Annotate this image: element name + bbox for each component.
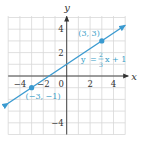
data-point bbox=[29, 85, 34, 90]
point-label: (−3, −1) bbox=[26, 92, 61, 101]
x-tick-label: −4 bbox=[14, 79, 27, 89]
equation-equals: = bbox=[90, 55, 97, 64]
x-tick-labels: −4−2024 bbox=[14, 79, 117, 89]
equation-denominator: 3 bbox=[99, 61, 103, 68]
y-tick-label: 2 bbox=[58, 48, 63, 58]
x-axis-label: x bbox=[131, 71, 137, 82]
y-tick-label: 4 bbox=[58, 24, 63, 34]
x-tick-label: 0 bbox=[58, 79, 63, 89]
y-axis-label: y bbox=[63, 2, 70, 13]
equation-y: y bbox=[80, 55, 86, 64]
equation-numerator: 2 bbox=[99, 51, 103, 58]
data-point bbox=[99, 38, 104, 43]
point-label: (3, 3) bbox=[78, 29, 100, 38]
x-tick-label: 2 bbox=[87, 79, 92, 89]
coordinate-plane: x y −4−2024 42−4 (3, 3)(−3, −1) y = 2 3 … bbox=[0, 0, 142, 142]
equation-rest: x + 1 bbox=[105, 55, 126, 64]
x-tick-label: 4 bbox=[111, 79, 116, 89]
y-tick-label: −4 bbox=[51, 118, 64, 128]
